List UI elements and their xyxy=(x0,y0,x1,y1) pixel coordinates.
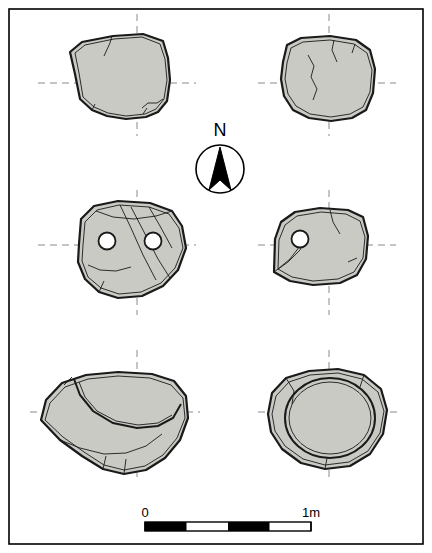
stone-hole xyxy=(145,233,162,250)
stone-hole xyxy=(292,231,309,248)
north-arrow-label: N xyxy=(214,120,227,140)
scale-bar-label-left: 0 xyxy=(141,505,148,520)
scale-bar-label-right: 1m xyxy=(302,505,320,520)
stone-middle-right xyxy=(274,208,368,285)
stone-top-right xyxy=(281,36,375,121)
figure-canvas: N xyxy=(0,0,432,553)
stone-hole xyxy=(99,233,116,250)
